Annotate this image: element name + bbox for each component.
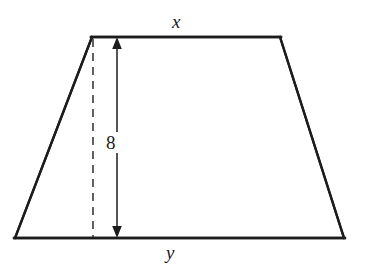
bottom-side-label: y xyxy=(166,243,174,262)
trapezoid-figure: x y 8 xyxy=(0,0,368,268)
trapezoid-shape xyxy=(15,37,344,238)
top-side-label: x xyxy=(172,12,180,31)
trapezoid-drawing-canvas xyxy=(0,0,368,268)
height-label: 8 xyxy=(103,132,119,153)
